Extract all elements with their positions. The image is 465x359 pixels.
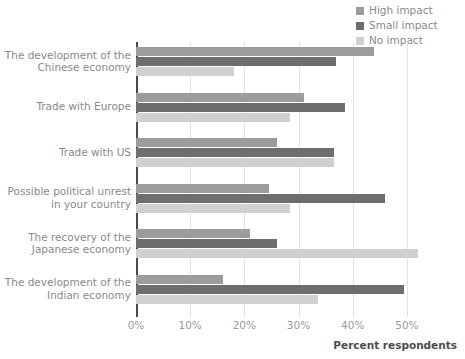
bar[interactable] [136, 184, 269, 193]
bar[interactable] [136, 148, 334, 157]
category-label: The recovery of theJapanese economy [0, 231, 131, 256]
bar[interactable] [136, 295, 318, 304]
bar[interactable] [136, 285, 404, 294]
chart-legend: High impactSmall impactNo impact [356, 4, 438, 47]
category-axis-labels: The development of theChinese economyTra… [0, 42, 131, 317]
category-label: The development of theIndian economy [0, 276, 131, 301]
legend-swatch-icon [356, 22, 364, 30]
plot-area [136, 42, 434, 317]
bar-group [136, 275, 434, 308]
bar-group [136, 229, 434, 262]
x-tick-label: 40% [341, 319, 364, 331]
category-label: Trade with US [0, 146, 131, 159]
bar[interactable] [136, 67, 234, 76]
category-label: Possible political unrestin your country [0, 185, 131, 210]
bar[interactable] [136, 239, 277, 248]
bar[interactable] [136, 103, 345, 112]
bar[interactable] [136, 204, 290, 213]
bar[interactable] [136, 113, 290, 122]
bar[interactable] [136, 249, 418, 258]
category-label: Trade with Europe [0, 100, 131, 113]
x-tick-label: 0% [128, 319, 145, 331]
bar[interactable] [136, 158, 334, 167]
x-tick-label: 20% [233, 319, 256, 331]
category-label: The development of theChinese economy [0, 49, 131, 74]
bar-group [136, 184, 434, 217]
legend-swatch-icon [356, 7, 364, 15]
legend-label: Small impact [369, 19, 438, 32]
bar-chart: High impactSmall impactNo impact The dev… [0, 0, 465, 359]
bar[interactable] [136, 47, 374, 56]
legend-item[interactable]: High impact [356, 4, 438, 17]
x-tick-label: 50% [395, 319, 418, 331]
bar[interactable] [136, 275, 223, 284]
x-tick-label: 10% [179, 319, 202, 331]
legend-item[interactable]: Small impact [356, 19, 438, 32]
x-axis-ticks: 0%10%20%30%40%50% [136, 319, 434, 335]
x-tick-label: 30% [287, 319, 310, 331]
bar-groups [136, 42, 434, 317]
bar[interactable] [136, 138, 277, 147]
bar[interactable] [136, 194, 385, 203]
bar[interactable] [136, 93, 304, 102]
bar[interactable] [136, 57, 336, 66]
bar-group [136, 47, 434, 80]
bar-group [136, 93, 434, 126]
bar[interactable] [136, 229, 250, 238]
bar-group [136, 138, 434, 171]
legend-label: High impact [369, 4, 433, 17]
x-axis-title: Percent respondents [333, 339, 457, 351]
